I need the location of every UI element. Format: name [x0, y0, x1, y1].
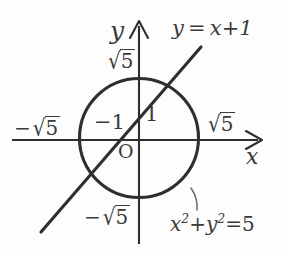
x-axis-tick-label-neg-sqrt5: −√5 [14, 116, 60, 138]
math-diagram-figure: y x O √5 −√5 −√5 √5 −1 1 y = x+1 x2+y2=5 [0, 0, 288, 256]
radicand: 5 [45, 116, 61, 138]
circle-eq-y-exponent: 2 [217, 211, 225, 226]
y-axis-tick-label-neg-sqrt5: −√5 [84, 205, 130, 227]
neg-sqrt5-left-sign: − [14, 118, 33, 138]
origin-label: O [118, 142, 134, 161]
x-axis-tick-label-sqrt5: √5 [206, 112, 235, 134]
radical-sign: √ [208, 113, 221, 136]
circle-eq-x-exponent: 2 [181, 211, 189, 226]
circle-equation-label: x2+y2=5 [170, 213, 255, 234]
y-axis-tick-label-sqrt5: √5 [106, 49, 135, 71]
radicand: 5 [120, 49, 136, 71]
line-y-intercept-label: 1 [145, 104, 158, 125]
radical-sign: √ [33, 117, 46, 140]
y-axis-label: y [110, 18, 124, 43]
neg-sqrt5-bottom-sign: − [84, 207, 103, 227]
radical-sign: √ [103, 206, 116, 229]
circle-eq-tail: =5 [225, 212, 254, 236]
circle-eq-plus-y: +y [189, 212, 217, 236]
radical-sign: √ [108, 50, 121, 73]
radicand: 5 [220, 112, 236, 134]
line-equation-label: y = x+1 [172, 18, 253, 39]
circle-equation-leader [191, 188, 197, 210]
circle-eq-x: x [170, 212, 181, 236]
line-x-intercept-label: −1 [94, 112, 125, 133]
x-axis-label: x [246, 146, 258, 168]
radicand: 5 [115, 205, 131, 227]
